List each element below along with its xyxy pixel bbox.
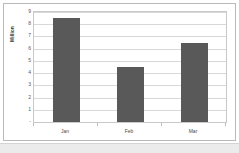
bottom-band xyxy=(0,144,239,153)
y-axis-tick-labels: 987654321- xyxy=(18,11,32,123)
x-axis-tick-label: Mar xyxy=(189,128,198,134)
plot-area xyxy=(33,11,227,123)
bar xyxy=(53,18,80,122)
x-axis-tick-mark xyxy=(161,123,162,126)
y-axis-tick-label: 6 xyxy=(18,45,31,50)
y-axis-tick-label: 9 xyxy=(18,9,31,14)
y-axis-title: Million xyxy=(6,12,18,56)
y-axis-tick-label: 8 xyxy=(18,21,31,26)
bar xyxy=(117,67,144,122)
x-axis-tick-label: Feb xyxy=(125,128,134,134)
y-axis-tick-label: 1 xyxy=(18,106,31,111)
x-axis-tick-mark xyxy=(97,123,98,126)
y-axis-tick-label: 3 xyxy=(18,82,31,87)
y-axis-tick-label: 2 xyxy=(18,94,31,99)
y-axis-tick-label: 4 xyxy=(18,70,31,75)
x-axis-tick-label: Jan xyxy=(61,128,69,134)
gridline xyxy=(34,12,226,13)
chart-frame: Million 987654321- JanFebMar xyxy=(3,3,236,141)
x-axis-tick-marks xyxy=(33,123,227,127)
y-axis-tick-label: 5 xyxy=(18,57,31,62)
bar xyxy=(181,43,208,122)
y-axis-tick-label: - xyxy=(18,119,31,124)
chart-area: Million 987654321- JanFebMar xyxy=(4,4,235,140)
x-axis-tick-mark xyxy=(225,123,226,126)
x-axis-tick-labels: JanFebMar xyxy=(33,128,227,138)
chart-screenshot: Million 987654321- JanFebMar xyxy=(0,0,239,153)
y-axis-tick-label: 7 xyxy=(18,33,31,38)
y-axis-title-label: Million xyxy=(9,26,15,42)
x-axis-tick-mark xyxy=(33,123,34,126)
